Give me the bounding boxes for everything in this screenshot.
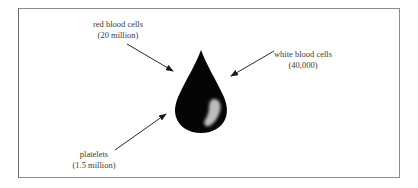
- label-white-blood-cells: white blood cells (40,000): [274, 49, 332, 71]
- label-platelets-name: platelets: [73, 149, 116, 160]
- label-red-blood-cells: red blood cells (20 million): [93, 19, 143, 41]
- arrow-platelets: [115, 114, 166, 150]
- blood-drop-icon: [175, 50, 227, 133]
- label-white-blood-cells-count: (40,000): [274, 60, 332, 71]
- label-platelets-count: (1.5 million): [73, 160, 116, 171]
- label-red-blood-cells-count: (20 million): [93, 30, 143, 41]
- label-red-blood-cells-name: red blood cells: [93, 19, 143, 30]
- arrow-red-blood-cells: [127, 44, 173, 71]
- arrow-white-blood-cells: [231, 51, 274, 76]
- label-platelets: platelets (1.5 million): [73, 149, 116, 171]
- blood-drop-diagram: [0, 0, 418, 188]
- label-white-blood-cells-name: white blood cells: [274, 49, 332, 60]
